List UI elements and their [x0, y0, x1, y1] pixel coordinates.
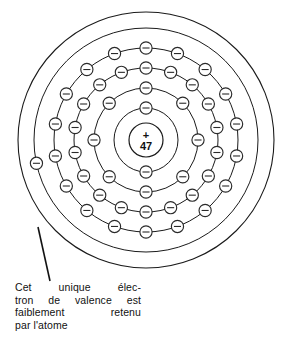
- electron-m-12: [94, 189, 106, 201]
- electron-n-5: [231, 118, 243, 130]
- electron-m-10: [140, 206, 152, 218]
- electron-n-9: [171, 220, 183, 232]
- electron-n-7: [220, 180, 232, 192]
- electron-m-17: [94, 79, 106, 91]
- caption-word: valence: [75, 294, 112, 307]
- electron-n-2: [171, 47, 183, 59]
- electron-m-3: [186, 79, 198, 91]
- electron-m-5: [211, 121, 223, 133]
- electron-n-14: [49, 150, 61, 162]
- electron-n-4: [220, 88, 232, 100]
- electron-l-3: [192, 134, 204, 146]
- caption-word: unique: [59, 281, 91, 294]
- electron-m-18: [115, 66, 127, 78]
- electron-l-1: [140, 82, 152, 94]
- caption-word: tron: [15, 294, 34, 307]
- electron-m-9: [165, 202, 177, 214]
- caption-line-3: faiblementretenu: [15, 306, 141, 319]
- electron-m-6: [211, 146, 223, 158]
- electron-m-15: [69, 121, 81, 133]
- electron-n-12: [81, 204, 93, 216]
- electron-n-11: [108, 220, 120, 232]
- electron-m-7: [202, 170, 214, 182]
- electron-m-11: [115, 202, 127, 214]
- caption-line-4: par l'atome: [15, 319, 141, 332]
- electron-n-1: [140, 42, 152, 54]
- caption-line-1: Cetuniqueélec-: [15, 281, 141, 294]
- caption-word: par l'atome: [15, 319, 68, 331]
- caption-leader-line: [38, 227, 50, 281]
- electron-k-1: [140, 102, 152, 114]
- electron-n-17: [81, 63, 93, 75]
- electron-m-4: [202, 98, 214, 110]
- electron-m-13: [78, 170, 90, 182]
- electron-m-14: [69, 146, 81, 158]
- electron-m-16: [78, 98, 90, 110]
- leader-line-segment: [38, 227, 50, 281]
- electron-k-2: [140, 166, 152, 178]
- electron-n-15: [49, 118, 61, 130]
- caption-word: élec-: [118, 281, 141, 294]
- electron-l-2: [177, 97, 189, 109]
- caption-word: est: [127, 294, 141, 307]
- nucleus-proton-number: 47: [140, 140, 152, 152]
- caption-text: Cetuniqueélec-trondevalenceestfaiblement…: [15, 281, 141, 331]
- caption-word: de: [48, 294, 60, 307]
- electron-l-7: [88, 134, 100, 146]
- caption-word: retenu: [111, 306, 141, 319]
- electron-m-2: [165, 66, 177, 78]
- electron-n-13: [60, 180, 72, 192]
- nucleus: +47: [129, 123, 163, 157]
- electron-n-10: [140, 226, 152, 238]
- electron-m-1: [140, 62, 152, 74]
- electron-l-5: [140, 186, 152, 198]
- electron-l-6: [103, 171, 115, 183]
- electron-l-8: [103, 97, 115, 109]
- electron-m-8: [186, 189, 198, 201]
- electron-n-3: [199, 63, 211, 75]
- electron-n-16: [60, 88, 72, 100]
- electron-n-18: [108, 47, 120, 59]
- caption-word: Cet: [15, 281, 32, 294]
- caption-line-2: trondevalenceest: [15, 294, 141, 307]
- caption-word: faiblement: [15, 306, 64, 319]
- electron-n-8: [199, 204, 211, 216]
- electron-n-6: [231, 150, 243, 162]
- electron-l-4: [177, 171, 189, 183]
- electron-o-1: [30, 157, 42, 169]
